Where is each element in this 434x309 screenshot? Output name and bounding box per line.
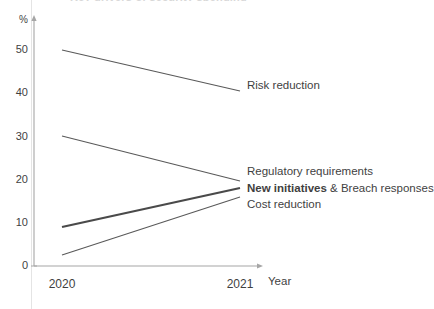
y-tick-label-0: 0 [4,259,28,271]
x-axis-title: Year [268,275,291,287]
series-label-plain-part: & Breach responses [327,182,434,194]
series-label-cost-reduction: Cost reduction [247,198,321,211]
y-axis-arrowhead [31,15,36,21]
y-tick-label-20: 20 [4,173,28,185]
series-label-bold-part: New initiatives [247,182,327,194]
series-line-new-initiatives-breach-responses [62,188,240,227]
y-tick-label-40: 40 [4,86,28,98]
y-tick-label-50: 50 [4,43,28,55]
y-axis-unit-label: % [19,14,28,25]
series-label-new-initiatives-breach-responses: New initiatives & Breach responses [247,182,434,195]
x-axis-arrowhead [257,263,263,268]
series-label-regulatory-requirements: Regulatory requirements [247,165,373,178]
series-line-risk-reduction [62,50,240,91]
x-tick-label-2021: 2021 [217,277,263,291]
series-line-cost-reduction [62,197,240,255]
series-label-risk-reduction: Risk reduction [247,79,320,92]
y-tick-label-10: 10 [4,216,28,228]
series-line-regulatory-requirements [62,136,240,181]
x-tick-label-2020: 2020 [39,277,85,291]
y-tick-label-30: 30 [4,130,28,142]
